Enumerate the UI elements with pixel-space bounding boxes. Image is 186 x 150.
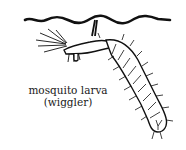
larva-antenna: [74, 54, 78, 61]
caption: mosquito larva (wiggler): [18, 84, 118, 108]
siphon: [92, 20, 97, 36]
mosquito-larva-illustration: [0, 0, 186, 150]
caption-line-2: (wiggler): [18, 96, 118, 108]
caption-line-1: mosquito larva: [18, 84, 118, 96]
